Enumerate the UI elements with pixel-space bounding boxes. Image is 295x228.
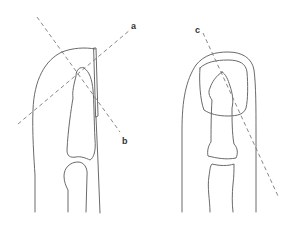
dashed-line-a: [18, 30, 130, 124]
right-finger-dorsal-view: [182, 52, 256, 212]
right-nail: [200, 60, 248, 116]
left-middle-phalanx: [64, 162, 87, 212]
label-c: c: [195, 25, 200, 35]
label-a: a: [131, 21, 137, 31]
label-b: b: [122, 136, 128, 146]
left-distal-phalanx: [67, 67, 95, 160]
left-finger-outline: [33, 48, 95, 212]
left-finger-lateral-view: [33, 48, 100, 213]
finger-diagram: a b c: [0, 0, 295, 228]
right-finger-outline: [182, 52, 256, 212]
right-middle-phalanx: [208, 164, 234, 212]
dashed-line-b: [37, 17, 120, 132]
left-nail-bed-line: [96, 117, 100, 213]
